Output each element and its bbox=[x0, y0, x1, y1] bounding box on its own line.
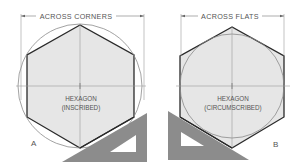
hexagon-sublabel-a: (INSCRIBED) bbox=[62, 104, 100, 112]
dimension-label-a: ACROSS CORNERS bbox=[40, 12, 113, 21]
hexagon-a bbox=[27, 25, 134, 148]
panel-label-b: B bbox=[273, 140, 278, 149]
arrowhead-left-a bbox=[21, 15, 25, 17]
hexagon-label-b: HEXAGON bbox=[217, 95, 249, 102]
arrowhead-right-a bbox=[140, 15, 144, 17]
panel-a-inscribed: ACROSS CORNERS HEXAGON (INSCRIBED) A bbox=[16, 12, 147, 162]
dimension-label-b: ACROSS FLATS bbox=[201, 12, 259, 21]
hexagon-construction-diagram: ACROSS CORNERS HEXAGON (INSCRIBED) A ACR… bbox=[0, 0, 298, 166]
arrowhead-left-b bbox=[181, 15, 185, 17]
arrowhead-right-b bbox=[280, 15, 284, 17]
hexagon-sublabel-b: (CIRCUMSCRIBED) bbox=[204, 104, 261, 112]
panel-b-circumscribed: ACROSS FLATS HEXAGON (CIRCUMSCRIBED) B bbox=[168, 12, 290, 160]
hexagon-label-a: HEXAGON bbox=[65, 95, 97, 102]
panel-label-a: A bbox=[31, 139, 37, 148]
